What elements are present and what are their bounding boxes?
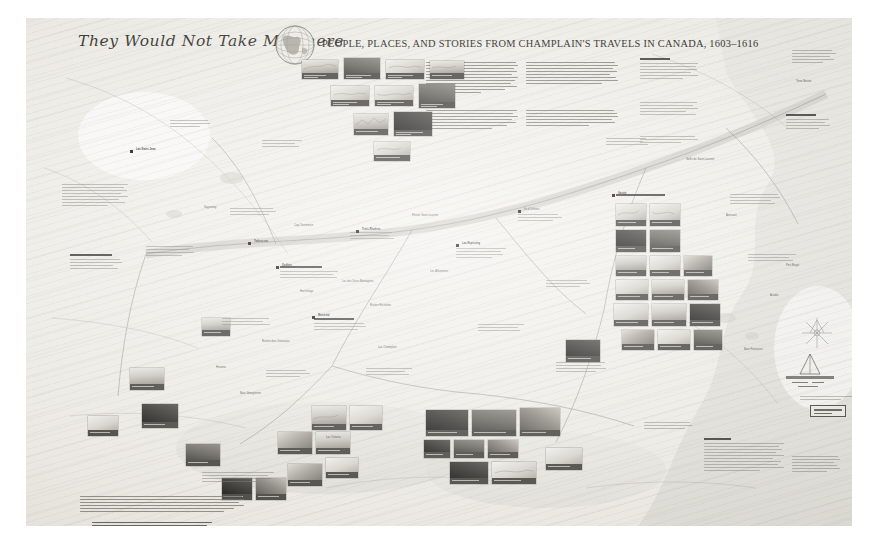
media-tile[interactable] (350, 406, 382, 430)
media-tile[interactable] (652, 280, 684, 300)
map-place-label: Lac des Deux Montagnes (342, 280, 374, 284)
media-tile[interactable] (288, 464, 322, 486)
publisher-tagline (800, 396, 852, 402)
media-tile[interactable] (520, 408, 560, 436)
map-annotation (314, 318, 366, 332)
media-tile[interactable] (88, 416, 118, 436)
map-place-label: Gaspé (618, 192, 626, 196)
map-place-label: Terre-Neuve (796, 80, 811, 84)
introduction-text-column (526, 110, 618, 128)
media-tile[interactable] (616, 280, 648, 300)
media-tile[interactable] (394, 112, 432, 136)
media-tile[interactable] (374, 142, 410, 161)
media-tile[interactable] (386, 60, 424, 79)
media-tile[interactable] (130, 368, 164, 390)
media-tile[interactable] (650, 230, 680, 252)
map-place-label: Trois-Rivières (362, 228, 381, 232)
credits-text (92, 522, 212, 526)
sidebar-note-column (640, 136, 698, 145)
media-tile[interactable] (658, 330, 690, 350)
map-place-label: Les Allumettes (430, 270, 448, 274)
map-marker[interactable] (456, 244, 459, 247)
map-annotation (350, 232, 394, 241)
media-tile[interactable] (142, 404, 178, 428)
map-annotation (146, 246, 194, 258)
media-tile[interactable] (492, 462, 536, 484)
map-place-label: Saguenay (204, 206, 216, 210)
map-marker[interactable] (312, 316, 315, 319)
poster-subtitle: PEOPLE, PLACES, AND STORIES FROM CHAMPLA… (322, 38, 758, 49)
map-annotation (222, 318, 270, 327)
map-place-label: Hochelaga (300, 290, 313, 294)
media-tile[interactable] (694, 330, 722, 350)
media-tile[interactable] (614, 304, 648, 326)
map-marker[interactable] (356, 230, 359, 233)
map-place-label: Rivière des Outaouais (262, 340, 290, 344)
map-place-label: Tadoussac (254, 240, 268, 244)
media-tile[interactable] (652, 304, 686, 326)
introduction-text-column (426, 110, 518, 131)
map-annotation (748, 254, 796, 263)
map-annotation (644, 422, 692, 431)
media-tile[interactable] (622, 330, 654, 350)
media-tile[interactable] (616, 204, 646, 226)
map-annotation (556, 362, 606, 374)
poster-artwork[interactable]: They Would Not Take Me There PEOPLE, PLA… (26, 18, 852, 526)
map-marker[interactable] (518, 210, 521, 213)
media-tile[interactable] (616, 230, 646, 252)
map-marker[interactable] (276, 266, 279, 269)
media-tile[interactable] (650, 256, 680, 276)
map-annotation (456, 248, 506, 260)
media-tile[interactable] (344, 58, 380, 79)
map-place-label: Québec (282, 264, 292, 268)
map-place-label: Fleuve Saint-Laurent (412, 214, 438, 218)
media-tile[interactable] (419, 84, 455, 108)
media-tile[interactable] (566, 340, 600, 362)
publisher-wordmark[interactable] (796, 396, 852, 420)
map-place-label: Port-Royal (786, 264, 799, 268)
media-tile[interactable] (616, 256, 646, 276)
map-annotation (230, 208, 276, 217)
map-marker[interactable] (130, 150, 133, 153)
media-tile[interactable] (375, 86, 413, 106)
compass-rose-icon (798, 316, 836, 350)
media-tile[interactable] (430, 61, 464, 79)
media-tile[interactable] (690, 304, 720, 326)
map-place-label: Montréal (318, 314, 330, 318)
map-annotation (70, 254, 122, 271)
media-tile[interactable] (454, 440, 484, 458)
media-tile[interactable] (312, 406, 346, 430)
map-annotation (170, 120, 210, 129)
references-text (792, 456, 840, 474)
media-tile[interactable] (278, 432, 312, 454)
media-tile[interactable] (302, 60, 338, 79)
media-tile[interactable] (326, 458, 358, 478)
media-tile[interactable] (426, 410, 468, 436)
media-tile[interactable] (450, 462, 488, 484)
media-tile[interactable] (424, 440, 450, 458)
map-annotation (518, 214, 562, 223)
map-annotation (266, 370, 310, 379)
map-place-label: Rivière Richelieu (370, 304, 391, 308)
map-place-label: Île d'Orléans (524, 208, 540, 212)
media-tile[interactable] (684, 256, 712, 276)
map-place-label: Golfe du Saint-Laurent (686, 158, 714, 162)
media-tile[interactable] (186, 444, 220, 466)
media-tile[interactable] (688, 280, 718, 300)
map-annotation (478, 324, 524, 333)
media-tile[interactable] (650, 204, 680, 226)
map-place-label: Baie Françoise (744, 348, 763, 352)
map-annotation (62, 184, 128, 208)
media-tile[interactable] (331, 86, 369, 106)
media-tile[interactable] (488, 440, 518, 458)
media-tile[interactable] (472, 410, 516, 436)
media-tile[interactable] (354, 114, 388, 135)
map-place-label: Huronia (216, 366, 226, 370)
map-annotation (730, 194, 780, 206)
map-marker[interactable] (612, 194, 615, 197)
sidebar-note-column (640, 58, 698, 81)
map-marker[interactable] (248, 242, 251, 245)
scale-and-north-indicator (778, 348, 842, 390)
publisher-logo-box[interactable] (810, 405, 846, 417)
media-tile[interactable] (546, 448, 582, 470)
